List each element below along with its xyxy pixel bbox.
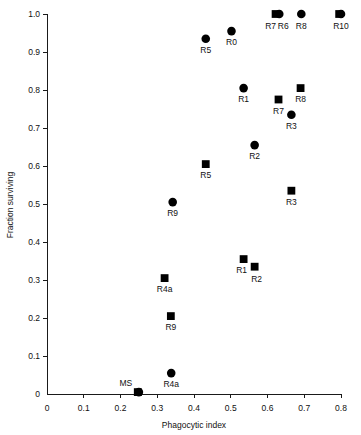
x-tick-label: 0.2 [115, 403, 127, 413]
data-point-square [272, 10, 280, 18]
data-point-label: MS [120, 378, 133, 388]
plot-canvas: 00.10.20.30.40.50.60.70.80.91.0 00.10.20… [0, 0, 361, 435]
data-point-label: R1 [236, 265, 247, 275]
data-point-label: R9 [165, 322, 176, 332]
data-point-label: R2 [249, 151, 260, 161]
x-axis-group: 00.10.20.30.40.50.60.70.8 [45, 394, 348, 413]
data-point-circle [201, 34, 210, 43]
data-point-label: R8 [296, 21, 307, 31]
data-point-circle [297, 10, 306, 19]
y-tick-label: 0.5 [28, 199, 40, 209]
y-axis-title: Fraction surviving [5, 171, 15, 238]
data-point-square [167, 312, 175, 320]
data-point-label: R10 [333, 21, 349, 31]
data-point-circle [239, 84, 248, 93]
data-point-circle [250, 141, 259, 150]
data-point-label: R3 [286, 197, 297, 207]
data-point-label: R6 [278, 21, 289, 31]
y-tick-label: 0.6 [28, 161, 40, 171]
data-markers-group [134, 10, 345, 397]
data-point-label: R9 [167, 208, 178, 218]
y-tick-label: 0.2 [28, 313, 40, 323]
x-tick-label: 0.1 [78, 403, 90, 413]
data-point-label: R2 [251, 274, 262, 284]
data-point-square [297, 84, 305, 92]
point-labels-group: MSR4aR9R2R3R1R5R0R6R8R10R9R4aR2R1R3R5R7R… [120, 21, 350, 389]
data-point-circle [167, 369, 176, 378]
x-tick-label: 0.7 [298, 403, 310, 413]
data-point-label: R3 [286, 121, 297, 131]
data-point-label: R7 [265, 21, 276, 31]
data-point-label: R7 [273, 106, 284, 116]
y-tick-label: 0.7 [28, 123, 40, 133]
x-tick-label: 0.6 [262, 403, 274, 413]
y-tick-label: 0.4 [28, 237, 40, 247]
y-tick-label: 0.9 [28, 47, 40, 57]
data-point-circle [168, 198, 177, 207]
y-axis-group: 00.10.20.30.40.50.60.70.80.91.0 [28, 9, 47, 399]
scatter-plot-figure: 00.10.20.30.40.50.60.70.80.91.0 00.10.20… [0, 0, 361, 435]
x-tick-label: 0.4 [188, 403, 200, 413]
data-point-label: R8 [295, 94, 306, 104]
data-point-square [134, 388, 142, 396]
data-point-label: R5 [200, 170, 211, 180]
data-point-label: R0 [226, 37, 237, 47]
x-tick-label: 0.8 [335, 403, 347, 413]
data-point-square [275, 96, 283, 104]
y-tick-label: 0.8 [28, 85, 40, 95]
data-point-circle [227, 27, 236, 36]
data-point-circle [287, 110, 296, 119]
data-point-label: R1 [238, 94, 249, 104]
data-point-label: R4a [157, 284, 173, 294]
y-tick-label: 0.3 [28, 275, 40, 285]
data-point-square [240, 255, 248, 263]
data-point-square [251, 263, 259, 271]
data-point-square [287, 187, 295, 195]
x-axis-title: Phagocytic index [162, 420, 227, 430]
data-point-label: R4a [163, 379, 179, 389]
x-tick-label: 0.5 [225, 403, 237, 413]
data-point-square [202, 160, 210, 168]
data-point-square [161, 274, 169, 282]
y-tick-label: 0 [35, 389, 40, 399]
data-point-square [335, 10, 343, 18]
x-tick-label: 0 [45, 403, 50, 413]
y-tick-label: 1.0 [28, 9, 40, 19]
data-point-label: R5 [200, 45, 211, 55]
x-tick-label: 0.3 [151, 403, 163, 413]
y-tick-label: 0.1 [28, 351, 40, 361]
